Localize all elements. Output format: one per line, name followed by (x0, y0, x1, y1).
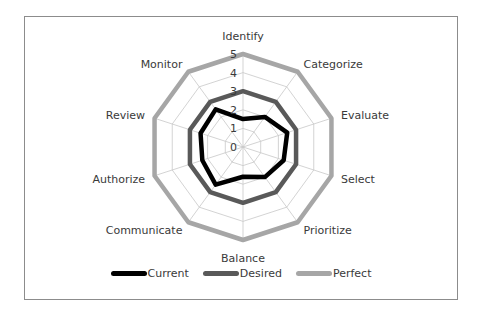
axis-label-select: Select (341, 173, 376, 186)
legend-label-perfect: Perfect (333, 267, 372, 280)
radial-tick-label: 1 (230, 122, 237, 135)
legend-item-desired: Desired (203, 267, 282, 280)
legend-swatch-desired (203, 271, 239, 276)
axis-label-authorize: Authorize (92, 173, 145, 186)
axis-label-communicate: Communicate (106, 224, 183, 237)
axis-label-identify: Identify (222, 30, 264, 43)
legend: Current Desired Perfect (0, 267, 482, 280)
legend-swatch-perfect (296, 271, 332, 276)
grid-spoke (243, 147, 298, 222)
axis-label-evaluate: Evaluate (341, 109, 389, 122)
radial-tick-label: 0 (230, 141, 237, 154)
radial-tick-label: 3 (230, 85, 237, 98)
radial-tick-label: 2 (230, 104, 237, 117)
axis-label-review: Review (106, 109, 145, 122)
axis-label-prioritize: Prioritize (304, 224, 352, 237)
legend-swatch-current (111, 271, 147, 276)
legend-item-current: Current (111, 267, 189, 280)
axis-label-monitor: Monitor (141, 58, 183, 71)
grid-spoke (243, 72, 298, 147)
legend-label-current: Current (148, 267, 189, 280)
legend-label-desired: Desired (240, 267, 282, 280)
legend-item-perfect: Perfect (296, 267, 372, 280)
axis-label-categorize: Categorize (304, 58, 364, 71)
axis-label-balance: Balance (221, 252, 265, 265)
radial-tick-label: 5 (230, 48, 237, 61)
grid-spoke (243, 147, 331, 176)
radial-tick-label: 4 (230, 67, 237, 80)
